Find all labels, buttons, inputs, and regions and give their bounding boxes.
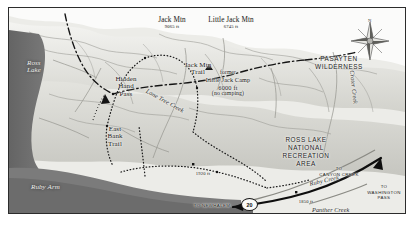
map-frame: Jack Mtn 9065 ft Little Jack Mtn 6745 ft… bbox=[8, 7, 406, 214]
compass-north-label: N bbox=[368, 18, 371, 23]
water-label-ross-lake: Ross Lake bbox=[27, 60, 41, 75]
camp-label-little-jack-camp: Little Jack Camp bbox=[206, 76, 251, 84]
destination-label-washington-pass: TO WASHINGTON PASS bbox=[367, 184, 401, 201]
peak-elevation-jack-mtn: 9065 ft bbox=[165, 25, 180, 30]
spot-elevation-1850: 1850 ft bbox=[299, 200, 314, 205]
water-label-ruby-arm: Ruby Arm bbox=[31, 184, 60, 191]
peak-elevation-little-jack-mtn: 6745 ft bbox=[224, 25, 239, 30]
area-label-ross-lake-nra: ROSS LAKE NATIONAL RECREATION AREA bbox=[283, 136, 330, 168]
trail-label-east-bank-trail: East Bank Trail bbox=[107, 126, 122, 148]
map-figure: Jack Mtn 9065 ft Little Jack Mtn 6745 ft… bbox=[0, 0, 412, 226]
highway-shield-20: 20 bbox=[241, 198, 258, 211]
camp-note-no-camping: (no camping) bbox=[212, 90, 244, 97]
map-terrain-illustration bbox=[9, 8, 405, 213]
camp-qualifier: former bbox=[220, 69, 236, 76]
spot-elevation-1920: 1920 ft bbox=[196, 172, 211, 177]
trail-label-hidden-hand-pass: Hidden Hand Pass bbox=[115, 76, 136, 98]
destination-label-canyon-creek: TO CANYON CREEK bbox=[319, 166, 358, 177]
creek-label-panther-creek: Panther Creek bbox=[312, 207, 349, 214]
area-label-pasayten-wilderness: PASAYTEN WILDERNESS bbox=[315, 55, 363, 71]
trail-label-jack-mtn-trail: Jack Mtn Trail bbox=[185, 62, 212, 77]
destination-label-newhalem: TO NEWHALEM bbox=[194, 203, 230, 209]
